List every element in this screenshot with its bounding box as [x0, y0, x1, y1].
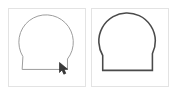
q-glyph-shape	[19, 15, 74, 70]
finished-drawing-panel[interactable]	[91, 8, 169, 87]
drawing-canvas-right[interactable]	[92, 9, 168, 86]
screenshot-root	[0, 0, 179, 95]
in-progress-drawing-panel[interactable]	[8, 8, 86, 87]
q-glyph-shape	[99, 13, 156, 70]
drawing-canvas-left[interactable]	[9, 9, 85, 86]
